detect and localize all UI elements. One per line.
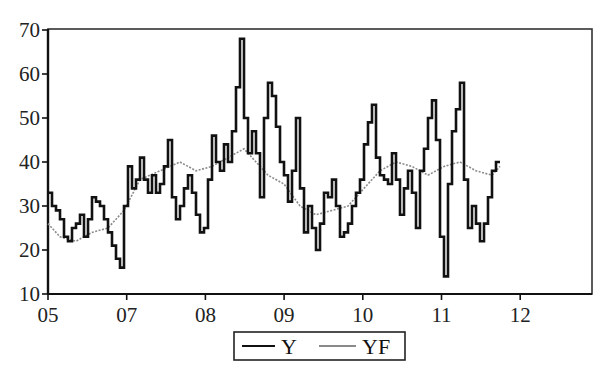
x-tick-label: 12 [510,303,531,327]
x-tick-label: 09 [274,303,295,327]
y-tick-label: 50 [19,106,40,130]
y-tick-label: 70 [19,18,40,42]
x-tick-label: 10 [352,303,373,327]
y-tick-label: 60 [19,62,40,86]
legend: Y YF [234,332,405,360]
y-axis-ticks: 10203040506070 [19,18,48,306]
line-chart: 10203040506070 05070809101112 Y YF [0,0,607,374]
x-axis-ticks: 05070809101112 [38,294,531,327]
x-tick-label: 05 [38,303,59,327]
x-tick-label: 11 [431,303,451,327]
legend-label-yf: YF [362,334,390,359]
y-tick-label: 30 [19,194,40,218]
x-tick-label: 07 [116,303,137,327]
plot-frame [48,29,592,294]
y-tick-label: 40 [19,150,40,174]
y-tick-label: 20 [19,238,40,262]
series-yf-line [48,149,500,241]
series-y-line [48,39,500,277]
legend-label-y: Y [281,334,297,359]
x-tick-label: 08 [195,303,216,327]
